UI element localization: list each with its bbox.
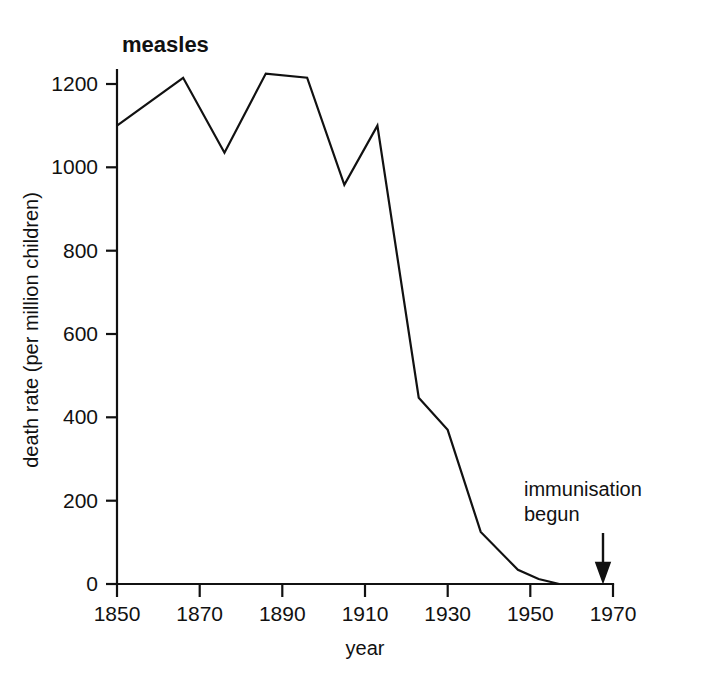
y-tick-label: 400 <box>63 405 98 428</box>
x-tick-label: 1890 <box>259 602 306 625</box>
y-axis-tick-labels: 0 200 400 600 800 1000 1200 <box>51 72 98 595</box>
x-axis-title: year <box>346 637 385 659</box>
y-tick-label: 600 <box>63 322 98 345</box>
y-tick-label: 0 <box>86 572 98 595</box>
x-tick-label: 1850 <box>94 602 141 625</box>
x-tick-label: 1910 <box>342 602 389 625</box>
y-tick-label: 800 <box>63 239 98 262</box>
measles-death-rate-chart: measles 0 200 400 600 800 1000 1200 <box>0 0 705 674</box>
annotation-immunisation-begun: immunisation begun <box>524 478 642 581</box>
x-tick-label: 1970 <box>590 602 637 625</box>
y-axis-title: death rate (per million children) <box>20 192 42 468</box>
chart-canvas: measles 0 200 400 600 800 1000 1200 <box>0 0 705 674</box>
down-arrow-icon <box>597 533 610 581</box>
annotation-label-line1: immunisation <box>524 478 642 500</box>
x-tick-label: 1930 <box>424 602 471 625</box>
y-axis-ticks <box>106 84 117 584</box>
y-tick-label: 1000 <box>51 155 98 178</box>
annotation-label-line2: begun <box>524 503 580 525</box>
x-axis-tick-labels: 1850 1870 1890 1910 1930 1950 1970 <box>94 602 637 625</box>
y-tick-label: 1200 <box>51 72 98 95</box>
page-title: measles <box>122 32 209 57</box>
x-tick-label: 1870 <box>176 602 223 625</box>
y-tick-label: 200 <box>63 489 98 512</box>
x-tick-label: 1950 <box>507 602 554 625</box>
x-axis-ticks <box>117 584 613 597</box>
